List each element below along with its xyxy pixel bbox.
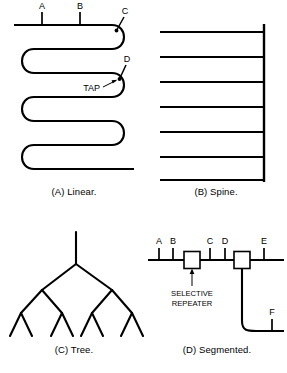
tap-a-label: A — [156, 236, 162, 246]
panel-segmented: A B C D E SELECTIVE REPEATER F — [148, 228, 286, 340]
tap-f-label: F — [269, 307, 275, 317]
panel-linear: A B C D TAP — [4, 2, 144, 184]
tap-a-label: A — [39, 2, 45, 11]
tap-d-leader — [120, 65, 127, 79]
caption-segmented: (D) Segmented. — [148, 344, 286, 355]
caption-linear: (A) Linear. — [4, 186, 144, 197]
tree-branch-l2 — [112, 290, 132, 313]
tree-topology-drawing — [4, 228, 144, 340]
linear-topology-drawing: A B C D TAP — [4, 2, 144, 184]
tap-d-label: D — [222, 236, 229, 246]
tree-leaf — [51, 313, 62, 336]
tree-branch-l2 — [92, 290, 112, 313]
tap-b-label: B — [170, 236, 176, 246]
figure-sheet: A B C D TAP (A) Linear. — [0, 0, 287, 373]
repeater-callout-arrowhead — [190, 269, 195, 275]
tap-c-label: C — [122, 6, 129, 16]
tree-leaf — [132, 313, 143, 336]
caption-spine: (B) Spine. — [148, 186, 284, 197]
tap-c-point — [115, 29, 119, 33]
segmented-topology-drawing: A B C D E SELECTIVE REPEATER F — [148, 228, 286, 340]
tree-leaf — [21, 313, 32, 336]
repeater-callout-line1: SELECTIVE — [171, 289, 213, 298]
tree-leaf — [81, 313, 92, 336]
serpentine-cable — [14, 25, 134, 169]
panel-spine — [148, 2, 284, 184]
tree-leaf — [10, 313, 21, 336]
tap-b-label: B — [77, 2, 83, 11]
spine-topology-drawing — [148, 2, 284, 184]
tree-branch-l2 — [42, 290, 62, 313]
tap-callout-label: TAP — [83, 83, 100, 93]
repeater-callout-line2: REPEATER — [172, 299, 213, 308]
selective-repeater-box — [184, 252, 200, 269]
panel-tree — [4, 228, 144, 340]
tap-d-label: D — [124, 54, 131, 64]
selective-repeater-box — [234, 252, 250, 269]
tap-d-point — [118, 77, 122, 81]
tree-leaf — [92, 313, 103, 336]
tree-leaf — [121, 313, 132, 336]
tap-callout-arrowhead — [112, 80, 118, 84]
tap-c-label: C — [207, 236, 214, 246]
tap-e-label: E — [261, 236, 267, 246]
tree-leaf — [62, 313, 73, 336]
tree-branch-l2 — [21, 290, 42, 313]
tree-branch-l1 — [42, 264, 76, 290]
tree-branch-l1 — [76, 264, 112, 290]
drop-branch-cable — [242, 269, 284, 332]
caption-tree: (C) Tree. — [4, 344, 144, 355]
